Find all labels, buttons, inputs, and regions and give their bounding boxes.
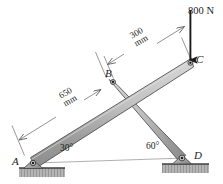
angle-label-30: 30° (60, 144, 73, 154)
figure-canvas (0, 0, 223, 184)
end-pin-c (188, 60, 193, 65)
point-label-d: D (194, 150, 202, 161)
load-label-800n: 800 N (188, 6, 214, 17)
joint-pin-b (111, 80, 116, 85)
ground-left (19, 168, 65, 177)
statics-frame-figure: A B C D 30° 60° 800 N 650 mm 300 mm (0, 0, 223, 184)
angle-label-60: 60° (146, 142, 159, 152)
baseline-a-d (36, 158, 185, 163)
ground-right (162, 164, 209, 173)
point-label-c: C (196, 54, 203, 65)
point-label-a: A (12, 156, 19, 167)
point-label-b: B (105, 68, 112, 79)
